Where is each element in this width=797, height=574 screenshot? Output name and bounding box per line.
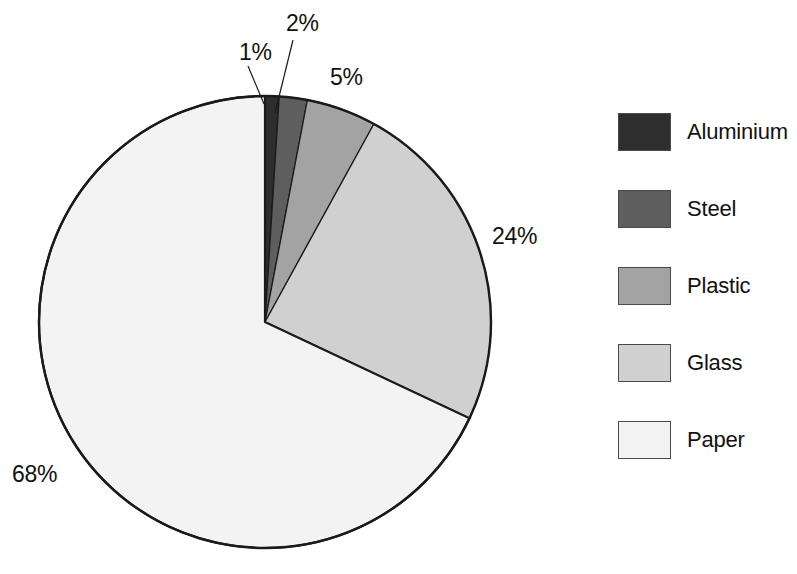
slice-value-label-aluminium: 1% — [239, 39, 272, 66]
legend-swatch-paper-icon — [618, 421, 671, 459]
legend-item-plastic: Plastic — [618, 266, 750, 306]
legend-item-steel: Steel — [618, 189, 736, 229]
legend-label-steel: Steel — [687, 196, 736, 222]
legend-swatch-steel-icon — [618, 190, 671, 228]
slice-value-label-paper: 68% — [12, 461, 57, 488]
legend-label-glass: Glass — [687, 350, 742, 376]
legend-label-aluminium: Aluminium — [687, 119, 788, 145]
legend-label-paper: Paper — [687, 427, 745, 453]
legend-item-paper: Paper — [618, 420, 745, 460]
pie-slices-group — [39, 96, 491, 548]
legend-swatch-aluminium-icon — [618, 113, 671, 151]
slice-value-label-steel: 2% — [286, 10, 319, 37]
legend-item-aluminium: Aluminium — [618, 112, 788, 152]
legend-item-glass: Glass — [618, 343, 742, 383]
pie-chart-figure: 1% 2% 5% 24% 68% Aluminium Steel Plastic… — [0, 0, 797, 574]
slice-value-label-glass: 24% — [492, 223, 537, 250]
legend-label-plastic: Plastic — [687, 273, 750, 299]
legend-swatch-plastic-icon — [618, 267, 671, 305]
legend-swatch-glass-icon — [618, 344, 671, 382]
slice-value-label-plastic: 5% — [330, 64, 363, 91]
